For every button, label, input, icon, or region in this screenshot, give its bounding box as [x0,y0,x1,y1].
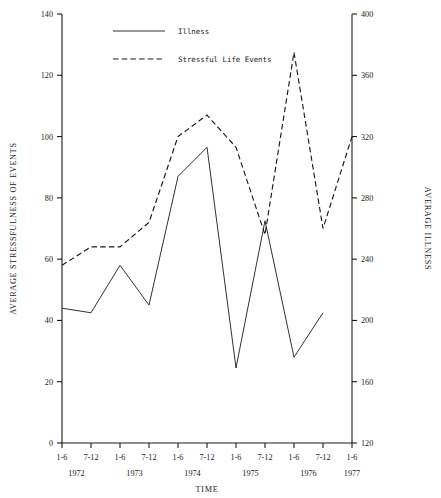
x-axis-tick-label: 7-12 [83,453,98,462]
x-axis-year-label: 1974 [184,469,200,478]
y-axis-tick-label-right: 160 [361,378,373,387]
y-axis-tick-label-right: 320 [361,133,373,142]
y-axis-tick-label-right: 360 [361,71,373,80]
y-axis-tick-label-right: 280 [361,194,373,203]
x-axis-tick-label: 1-6 [289,453,300,462]
y-axis-tick-label-right: 400 [361,10,373,19]
x-axis-tick-label: 7-12 [199,453,214,462]
x-axis-year-label: 1976 [300,469,316,478]
y-axis-title-right: AVERAGE ILLNESS [423,187,432,270]
y-axis-tick-label-left: 100 [41,133,53,142]
series-line-illness [62,147,323,368]
x-axis-year-label: 1973 [126,469,142,478]
y-axis-tick-label-left: 80 [45,194,53,203]
legend-label-illness: Illness [178,27,209,36]
legend-label-stressful-life-events: Stressful Life Events [178,55,271,64]
x-axis-tick-label: 7-12 [315,453,330,462]
y-axis-tick-label-left: 140 [41,10,53,19]
x-axis-tick-label: 1-6 [231,453,242,462]
y-axis-tick-label-right: 240 [361,255,373,264]
x-axis-tick-label: 7-12 [257,453,272,462]
x-axis-tick-label: 1-6 [115,453,126,462]
x-axis-year-label: 1977 [344,469,360,478]
series-line-stressful-life-events [62,52,352,265]
x-axis-tick-label: 7-12 [141,453,156,462]
y-axis-tick-label-left: 60 [45,255,53,264]
line-chart: 0204060801001201401201602002402803203604… [0,0,441,498]
x-axis-year-label: 1975 [242,469,258,478]
x-axis-tick-label: 1-6 [173,453,184,462]
y-axis-tick-label-left: 120 [41,71,53,80]
y-axis-tick-label-left: 20 [45,378,53,387]
y-axis-tick-label-right: 120 [361,439,373,448]
y-axis-title-left: AVERAGE STRESSFULNESS OF EVENTS [9,142,18,314]
y-axis-tick-label-left: 0 [49,439,53,448]
x-axis-year-label: 1972 [68,469,84,478]
x-axis-tick-label: 1-6 [347,453,358,462]
x-axis-tick-label: 1-6 [57,453,68,462]
left-bottom-axis [62,14,352,443]
x-axis-title: TIME [196,485,219,494]
y-axis-tick-label-right: 200 [361,316,373,325]
y-axis-tick-label-left: 40 [45,316,53,325]
chart-container: 0204060801001201401201602002402803203604… [0,0,441,498]
